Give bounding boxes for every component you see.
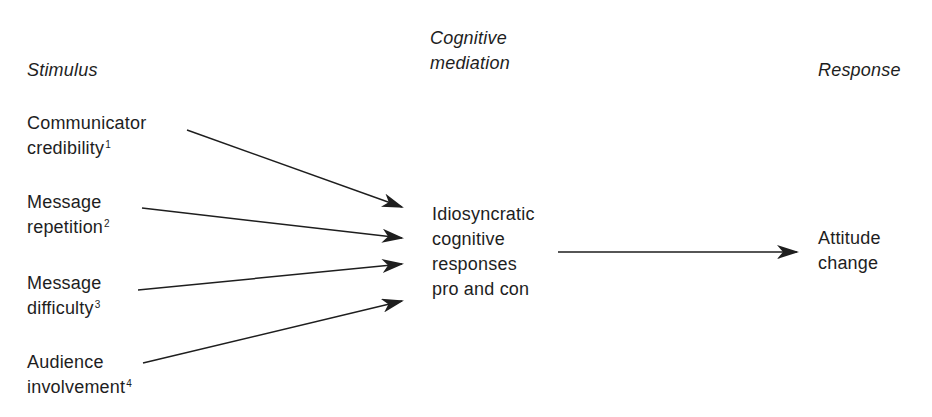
arrow-credibility-to-mediation bbox=[187, 130, 402, 207]
arrows-layer bbox=[0, 0, 932, 417]
persuasion-cognitive-response-diagram: Stimulus Cognitive mediation Response Co… bbox=[0, 0, 932, 417]
arrow-repetition-to-mediation bbox=[142, 208, 402, 238]
arrow-difficulty-to-mediation bbox=[138, 264, 402, 290]
arrow-involvement-to-mediation bbox=[143, 301, 402, 363]
